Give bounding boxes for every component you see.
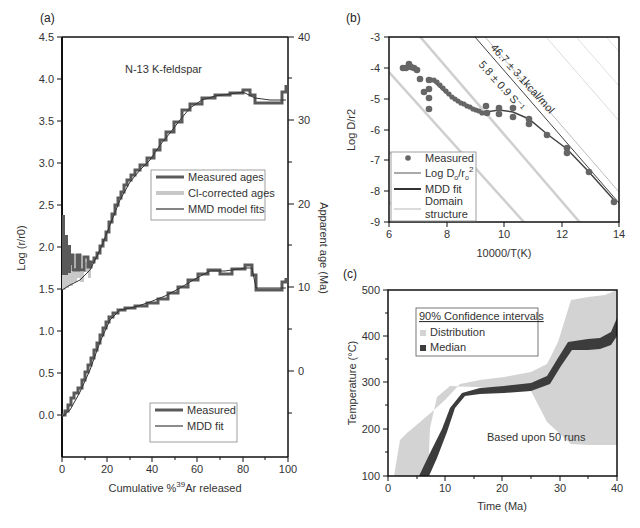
svg-text:2.5: 2.5 (39, 199, 54, 211)
svg-text:14: 14 (613, 228, 625, 240)
x-ticks: 0 20 40 60 80 100 (59, 457, 297, 475)
panel-c-label: (c) (343, 267, 357, 281)
legend-title: 90% Confidence intervals (419, 310, 544, 322)
x-ticks: 6 8 10 12 14 (386, 222, 625, 240)
panel-b: (b) -3 -4 -5 -6 -7 -8 -9 Log D/r2 6 (345, 11, 640, 259)
chart-title: N-13 K-feldspar (125, 63, 202, 75)
svg-text:3.5: 3.5 (39, 115, 54, 127)
svg-text:10: 10 (298, 281, 310, 293)
figure: (a) 4.5 4.0 3.5 3.0 2.5 2.0 1.5 1.0 0.5 … (0, 0, 640, 528)
svg-text:-5: -5 (370, 93, 380, 105)
svg-text:Measured ages: Measured ages (188, 171, 264, 183)
svg-text:12: 12 (556, 228, 568, 240)
svg-text:10: 10 (498, 228, 510, 240)
svg-text:MMD model fits: MMD model fits (188, 203, 265, 215)
svg-text:40: 40 (146, 463, 158, 475)
svg-text:-6: -6 (370, 124, 380, 136)
svg-text:-9: -9 (370, 216, 380, 228)
measured-ages-early-spikes (62, 215, 73, 275)
panel-a-label: (a) (40, 11, 55, 25)
x-axis-label: 10000/T(K) (476, 247, 531, 259)
svg-text:0: 0 (298, 365, 304, 377)
x-axis-label: Cumulative %39Ar released (108, 480, 241, 494)
y-axis-label-left: Log (r/r0) (15, 225, 27, 270)
svg-text:300: 300 (362, 376, 380, 388)
svg-text:20: 20 (101, 463, 113, 475)
svg-text:8: 8 (444, 228, 450, 240)
svg-text:0.0: 0.0 (39, 409, 54, 421)
panel-c: (c) 500 400 300 200 100 Temperature (°C)… (343, 267, 623, 512)
svg-text:4.0: 4.0 (39, 73, 54, 85)
x-axis-label: Time (Ma) (477, 500, 527, 512)
legend-lower: Measured MDD fit (150, 403, 237, 442)
svg-text:100: 100 (279, 463, 297, 475)
svg-text:0: 0 (385, 482, 391, 494)
svg-text:3.0: 3.0 (39, 157, 54, 169)
y-ticks-right: 40 30 20 10 0 (288, 31, 310, 413)
runs-annotation: Based upon 50 runs (487, 431, 586, 443)
svg-text:4.5: 4.5 (39, 31, 54, 43)
x-ticks: 0 10 20 30 40 (385, 476, 623, 494)
svg-text:Measured: Measured (187, 404, 236, 416)
svg-text:Measured: Measured (425, 152, 474, 164)
svg-text:40: 40 (298, 31, 310, 43)
svg-text:100: 100 (362, 470, 380, 482)
y-ticks: -3 -4 -5 -6 -7 -8 -9 (370, 31, 389, 228)
y-ticks-left: 4.5 4.0 3.5 3.0 2.5 2.0 1.5 1.0 0.5 0.0 (39, 31, 62, 421)
svg-text:0: 0 (59, 463, 65, 475)
svg-text:500: 500 (362, 284, 380, 296)
svg-text:Median: Median (430, 341, 466, 353)
svg-text:80: 80 (237, 463, 249, 475)
svg-text:-7: -7 (370, 154, 380, 166)
svg-text:Domain: Domain (425, 195, 463, 207)
y-ticks: 500 400 300 200 100 (362, 284, 388, 482)
svg-text:-4: -4 (370, 62, 380, 74)
measured-log-r-curve (62, 265, 286, 415)
svg-text:60: 60 (191, 463, 203, 475)
legend: 90% Confidence intervals Distribution Me… (416, 308, 544, 356)
svg-text:1.5: 1.5 (39, 283, 54, 295)
legend-upper: Measured ages Cl-corrected ages MMD mode… (151, 170, 275, 220)
svg-text:MDD fit: MDD fit (187, 420, 224, 432)
svg-text:400: 400 (362, 330, 380, 342)
y-axis-label-right: Apparent age (Ma) (318, 202, 330, 294)
y-axis-label: Temperature (°C) (346, 341, 358, 425)
svg-text:2.0: 2.0 (39, 241, 54, 253)
svg-text:6: 6 (386, 228, 392, 240)
y-axis-label: Log D/r2 (345, 109, 357, 151)
svg-text:40: 40 (611, 482, 623, 494)
panel-b-label: (b) (346, 11, 361, 25)
svg-text:-3: -3 (370, 31, 380, 43)
svg-text:1.0: 1.0 (39, 325, 54, 337)
svg-text:20: 20 (496, 482, 508, 494)
svg-text:20: 20 (298, 198, 310, 210)
svg-text:Cl-corrected ages: Cl-corrected ages (188, 187, 275, 199)
svg-text:-8: -8 (370, 185, 380, 197)
svg-text:MDD fit: MDD fit (425, 183, 462, 195)
legend: Measured Log Do/ro2 MDD fit Domain struc… (391, 152, 476, 221)
panel-a: (a) 4.5 4.0 3.5 3.0 2.5 2.0 1.5 1.0 0.5 … (15, 11, 330, 494)
svg-text:200: 200 (362, 423, 380, 435)
svg-text:10: 10 (439, 482, 451, 494)
svg-text:30: 30 (554, 482, 566, 494)
svg-text:structure: structure (425, 208, 468, 220)
svg-text:30: 30 (298, 114, 310, 126)
svg-text:0.5: 0.5 (39, 367, 54, 379)
svg-text:Distribution: Distribution (430, 326, 485, 338)
